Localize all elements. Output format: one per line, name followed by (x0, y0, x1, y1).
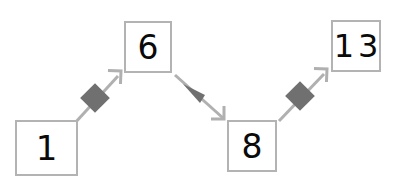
connector-6-to-8 (175, 75, 224, 119)
node-label-8: 8 (239, 130, 266, 163)
node-label-6: 6 (135, 31, 162, 64)
node-box-8[interactable]: 8 (227, 120, 277, 172)
node-box-1[interactable]: 1 (15, 120, 78, 176)
arrowhead-open-1-to-6 (108, 70, 121, 84)
node-label-13: 13 (330, 30, 383, 62)
diagram-canvas: 1 6 8 13 (0, 0, 394, 186)
node-box-6[interactable]: 6 (124, 21, 172, 73)
connector-8-to-13 (279, 68, 327, 121)
connector-1-to-6 (74, 70, 121, 124)
diamond-marker-8-to-13 (285, 81, 315, 111)
node-label-1: 1 (33, 131, 61, 165)
node-box-13[interactable]: 13 (331, 20, 381, 72)
triangle-marker-6-to-8 (183, 84, 205, 103)
